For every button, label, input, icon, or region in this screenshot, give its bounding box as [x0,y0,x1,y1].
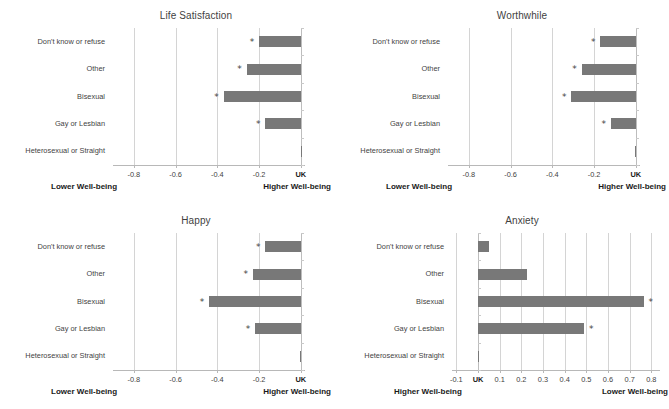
y-axis-tick [301,110,304,111]
bar [611,118,636,129]
significance-marker: * [200,297,205,306]
category-label-group: Don't know or refuseOtherBisexualGay or … [335,28,440,165]
category-label: Heterosexual or Straight [25,148,105,155]
significance-marker: * [572,65,577,74]
gridline [134,28,135,165]
tick-label: -0.1 [450,376,463,383]
y-axis-tick [636,138,639,139]
y-axis-tick [478,260,481,261]
y-axis-tick [301,260,304,261]
category-label: Bisexual [416,298,444,305]
significance-marker: * [214,92,219,101]
chart-panel-life-satisfaction: Life Satisfaction -0.8-0.6-0.4-0.2UKDon'… [0,0,334,204]
bar [478,296,644,307]
bar [301,146,302,157]
plot-area: -0.8-0.6-0.4-0.2UKDon't know or refuseOt… [113,28,305,165]
tick-label: 0.6 [603,376,613,383]
plot-area: -0.8-0.6-0.4-0.2UKDon't know or refuseOt… [448,28,640,165]
bar [265,118,300,129]
bar [209,296,301,307]
y-axis-tick [301,343,304,344]
y-axis-tick [478,233,481,234]
bar [582,64,636,75]
y-axis-tick [478,315,481,316]
gridline [301,233,302,370]
tick-label: -0.6 [169,376,182,383]
tick-label: 0.2 [516,376,526,383]
significance-marker: * [256,242,261,251]
bar [478,241,489,252]
chart-panel-happy: Happy -0.8-0.6-0.4-0.2UKDon't know or re… [0,205,334,409]
y-axis-tick [478,343,481,344]
category-label: Other [87,270,105,277]
category-label: Bisexual [77,298,105,305]
y-axis-tick [636,83,639,84]
gridline [176,28,177,165]
x-axis-line [452,370,660,371]
tick-label: -0.2 [253,171,266,178]
category-label: Don't know or refuse [372,38,440,45]
left-axis-caption: Higher Well-being [394,388,462,396]
category-label-group: Don't know or refuseOtherBisexualGay or … [0,233,105,370]
chart-panel-anxiety: Anxiety -0.1UK0.10.20.30.40.50.60.70.8Do… [335,205,669,409]
tick-label-uk: UK [295,376,306,383]
y-axis-tick [301,83,304,84]
bar [600,36,635,47]
y-axis-tick [301,165,304,166]
tick-label: 0.4 [560,376,570,383]
significance-marker: * [602,119,607,128]
category-label: Don't know or refuse [376,243,444,250]
tick-label: -0.2 [253,376,266,383]
bar [259,36,301,47]
tick-label: -0.4 [211,376,224,383]
tick-label: 0.1 [495,376,505,383]
category-label: Heterosexual or Straight [364,353,444,360]
category-label: Heterosexual or Straight [25,353,105,360]
category-label: Gay or Lesbian [394,325,444,332]
bar [224,91,301,102]
significance-marker: * [649,297,654,306]
tick-label-uk: UK [473,376,484,383]
category-label: Other [422,65,440,72]
tick-label: -0.6 [169,171,182,178]
gridline [301,28,302,165]
bar [478,323,584,334]
y-axis-tick [301,28,304,29]
bar [571,91,636,102]
y-axis-tick [301,55,304,56]
tick-label-uk: UK [295,171,306,178]
category-label: Bisexual [77,93,105,100]
significance-marker: * [237,65,242,74]
y-axis-tick [636,165,639,166]
significance-marker: * [256,119,261,128]
bar [635,146,636,157]
x-axis-line [448,165,640,166]
y-axis-tick [301,370,304,371]
category-label-group: Don't know or refuseOtherBisexualGay or … [335,233,444,370]
bar [255,323,301,334]
category-label: Gay or Lesbian [390,120,440,127]
gridline [176,233,177,370]
left-axis-caption: Lower Well-being [386,183,452,191]
chart-title: Happy [0,215,334,226]
category-label: Other [426,270,444,277]
x-axis-line [113,370,305,371]
chart-panel-worthwhile: Worthwhile -0.8-0.6-0.4-0.2UKDon't know … [335,0,669,204]
chart-title: Life Satisfaction [0,10,334,21]
gridline [456,233,457,370]
right-axis-caption: Lower Well-being [602,388,668,396]
tick-label: 0.5 [581,376,591,383]
tick-label-uk: UK [630,171,641,178]
category-label-group: Don't know or refuseOtherBisexualGay or … [0,28,105,165]
significance-marker: * [250,37,255,46]
left-axis-caption: Lower Well-being [51,388,117,396]
y-axis-tick [301,233,304,234]
right-axis-caption: Higher Well-being [263,388,331,396]
y-axis-tick [636,28,639,29]
chart-title: Anxiety [335,215,669,226]
y-axis-tick [478,288,481,289]
significance-marker: * [246,324,251,333]
tick-label: -0.8 [127,376,140,383]
plot-area: -0.8-0.6-0.4-0.2UKDon't know or refuseOt… [113,233,305,370]
chart-title: Worthwhile [335,10,669,21]
